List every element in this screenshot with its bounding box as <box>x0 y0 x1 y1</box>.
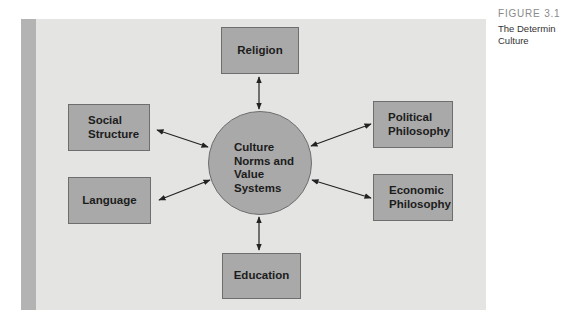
node-political-philosophy: Political Philosophy <box>373 101 453 148</box>
node-economic-philosophy: Economic Philosophy <box>373 174 453 221</box>
node-economic-philosophy-label: Economic Philosophy <box>389 184 451 211</box>
node-religion: Religion <box>221 27 299 74</box>
arrow-social-structure <box>157 130 208 147</box>
node-social-structure-label: Social Structure <box>88 114 139 141</box>
node-social-structure: Social Structure <box>68 104 150 151</box>
node-education: Education <box>222 253 301 299</box>
node-political-philosophy-label: Political Philosophy <box>388 111 450 138</box>
figure-caption: The Determin Culture <box>498 23 564 46</box>
figure-number: FIGURE 3.1 <box>498 8 560 19</box>
arrow-economic-philosophy <box>312 180 371 198</box>
node-language: Language <box>68 177 151 224</box>
node-language-label: Language <box>82 194 136 208</box>
node-education-label: Education <box>234 269 290 283</box>
arrow-language <box>159 180 210 200</box>
node-religion-label: Religion <box>237 44 282 58</box>
arrow-political-philosophy <box>311 124 371 146</box>
center-node-label: Culture Norms and Value Systems <box>234 141 304 195</box>
